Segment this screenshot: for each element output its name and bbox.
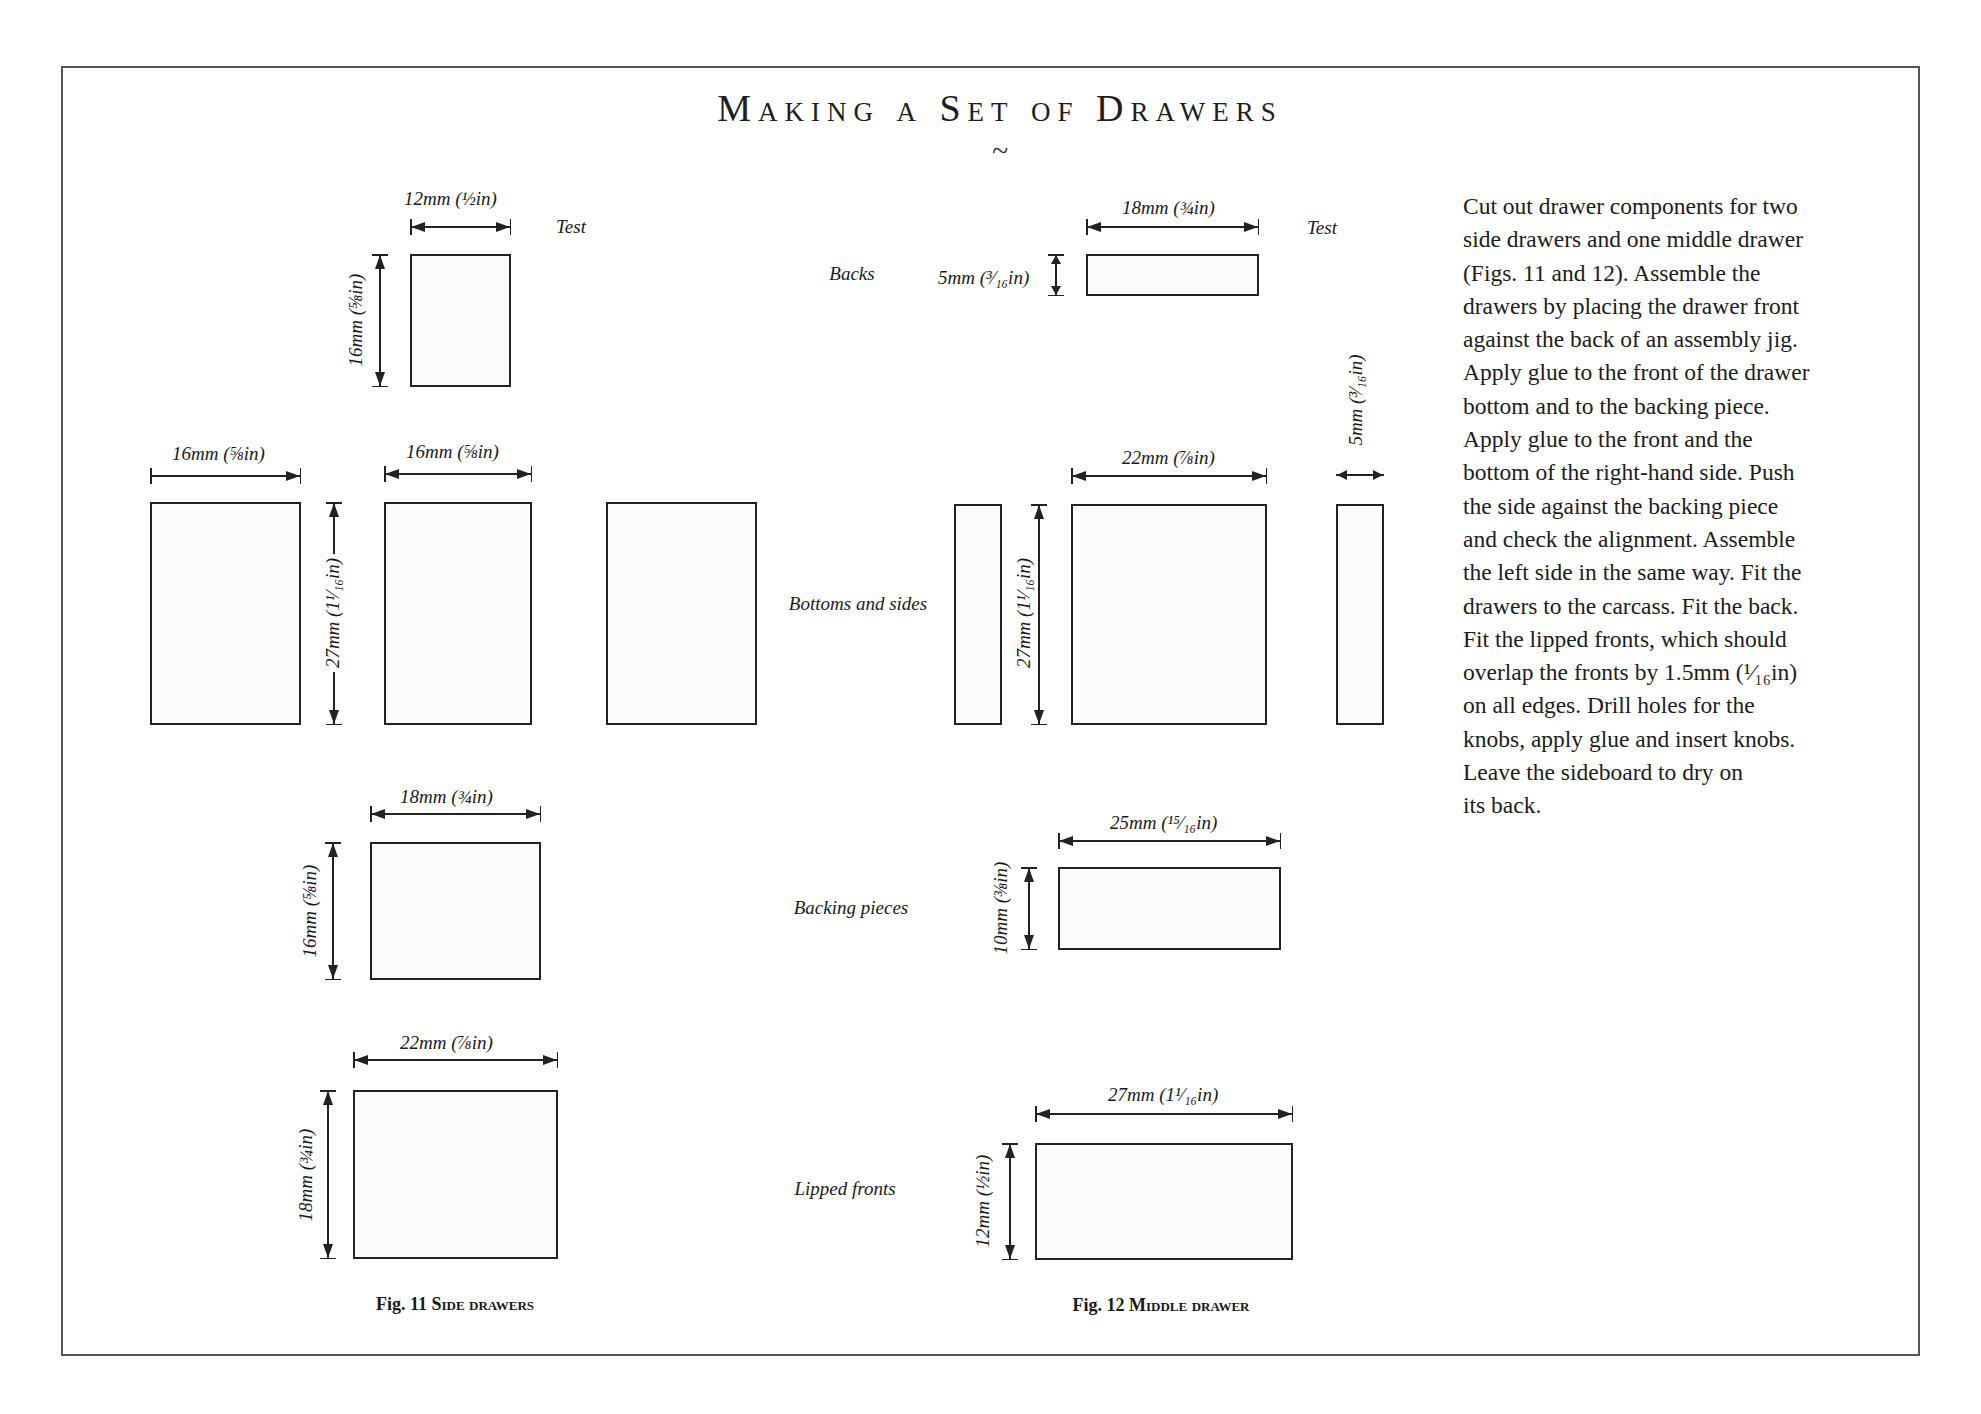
fig11-caption-number: Fig. 11 — [376, 1294, 427, 1314]
fig12-bottom-panel — [1071, 504, 1267, 725]
fig11-backing-height-label: 16mm (⅝in) — [299, 865, 321, 958]
fig11-caption: Fig. 11 Side drawers — [376, 1294, 534, 1315]
fig11-back-width-dimension — [410, 219, 511, 235]
row-label-backing-pieces: Backing pieces — [794, 897, 908, 919]
fig11-front-height-label: 18mm (¾in) — [295, 1129, 317, 1222]
fig11-back-panel — [410, 254, 511, 387]
fig12-right-side-panel — [1336, 504, 1384, 725]
fig12-backing-panel — [1058, 867, 1281, 950]
instructions-line: against the back of an assembly jig. — [1463, 323, 1913, 356]
fig12-back-width-dimension — [1086, 219, 1259, 235]
fig11-back-height-label: 16mm (⅝in) — [345, 274, 367, 367]
fig11-backing-width-label: 18mm (¾in) — [400, 786, 493, 808]
fig12-test-label: Test — [1307, 217, 1337, 239]
fig12-side-width-label: 5mm (³⁄₁₆in) — [1345, 354, 1367, 445]
fig12-backing-width-label: 25mm (¹⁵⁄₁₆in) — [1110, 812, 1217, 834]
fig12-bottom-width-label: 22mm (⅞in) — [1122, 447, 1215, 469]
fig12-side-width-dimension — [1336, 467, 1384, 483]
fig11-test-label: Test — [556, 216, 586, 238]
instructions-line: Cut out drawer components for two — [1463, 190, 1913, 223]
instructions-line: (Figs. 11 and 12). Assemble the — [1463, 257, 1913, 290]
fig11-front-width-dimension — [353, 1052, 558, 1068]
instructions-line: side drawers and one middle drawer — [1463, 223, 1913, 256]
instructions-line: Apply glue to the front and the — [1463, 423, 1913, 456]
fig11-bottoms-height-label: 27mm (1¹⁄₁₆in) — [322, 554, 344, 672]
fig12-backing-width-dimension — [1058, 833, 1281, 849]
fig11-front-width-label: 22mm (⅞in) — [400, 1032, 493, 1054]
fig12-bottoms-height-label: 27mm (1¹⁄₁₆in) — [1013, 558, 1035, 668]
fig12-back-width-label: 18mm (¾in) — [1122, 197, 1215, 219]
row-label-lipped-fronts: Lipped fronts — [794, 1178, 895, 1200]
instructions-line: drawers to the carcass. Fit the back. — [1463, 590, 1913, 623]
fig11-left-side-panel — [150, 502, 301, 725]
fig11-side-width-label: 16mm (⅝in) — [172, 443, 265, 465]
fig11-backing-panel — [370, 842, 541, 980]
instructions-line: the side against the backing piece — [1463, 490, 1913, 523]
instructions-line: overlap the fronts by 1.5mm (¹⁄₁₆in) — [1463, 656, 1913, 689]
fig12-front-width-dimension — [1035, 1106, 1293, 1122]
fig12-front-height-label: 12mm (½in) — [972, 1155, 994, 1248]
instructions-line: knobs, apply glue and insert knobs. — [1463, 723, 1913, 756]
instructions-line: and check the alignment. Assemble — [1463, 523, 1913, 556]
fig12-backing-height-label: 10mm (⅜in) — [990, 862, 1012, 955]
fig11-front-height-dimension — [320, 1090, 336, 1259]
instructions-line: bottom and to the backing piece. — [1463, 390, 1913, 423]
fig11-bottom-panel — [384, 502, 532, 725]
fig12-front-width-label: 27mm (1¹⁄₁₆in) — [1108, 1084, 1218, 1106]
fig12-back-height-label: 5mm (³⁄₁₆in) — [938, 267, 1029, 289]
instructions-line: Fit the lipped fronts, which should — [1463, 623, 1913, 656]
fig12-front-height-dimension — [1002, 1143, 1018, 1260]
fig11-backing-width-dimension — [370, 806, 541, 822]
instructions-text: Cut out drawer components for two side d… — [1463, 190, 1913, 823]
instructions-line: Leave the sideboard to dry on — [1463, 756, 1913, 789]
fig12-lipped-front-panel — [1035, 1143, 1293, 1260]
fig12-backing-height-dimension — [1021, 867, 1037, 950]
instructions-line: drawers by placing the drawer front — [1463, 290, 1913, 323]
instructions-line: its back. — [1463, 789, 1913, 822]
page-title: Making a Set of Drawers — [0, 86, 1981, 130]
instructions-line: on all edges. Drill holes for the — [1463, 689, 1913, 722]
fig12-caption-title: Middle drawer — [1129, 1295, 1249, 1315]
row-label-backs: Backs — [829, 263, 874, 285]
fig11-lipped-front-panel — [353, 1090, 558, 1259]
row-label-bottoms-and-sides: Bottoms and sides — [789, 593, 927, 615]
fig11-bottom-width-label: 16mm (⅝in) — [406, 441, 499, 463]
fig12-caption-number: Fig. 12 — [1073, 1295, 1125, 1315]
fig11-backing-height-dimension — [325, 842, 341, 980]
fig11-bottom-width-dimension — [384, 466, 532, 482]
instructions-line: Apply glue to the front of the drawer — [1463, 356, 1913, 389]
instructions-line: the left side in the same way. Fit the — [1463, 556, 1913, 589]
fig11-side-width-dimension — [150, 468, 301, 484]
title-ornament: ~ — [0, 134, 1981, 168]
fig11-right-side-panel — [606, 502, 757, 725]
fig11-caption-title: Side drawers — [431, 1294, 534, 1314]
fig12-caption: Fig. 12 Middle drawer — [1073, 1295, 1250, 1316]
fig12-back-panel — [1086, 254, 1259, 296]
fig12-back-height-dimension — [1048, 254, 1064, 296]
fig11-back-height-dimension — [372, 254, 388, 387]
fig12-left-side-panel — [954, 504, 1002, 725]
instructions-line: bottom of the right-hand side. Push — [1463, 456, 1913, 489]
fig12-bottom-width-dimension — [1071, 468, 1267, 484]
fig11-back-width-label: 12mm (½in) — [404, 188, 497, 210]
